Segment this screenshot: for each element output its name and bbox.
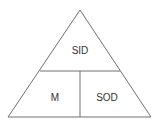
section-bottom-right-label: SOD xyxy=(96,92,118,103)
section-bottom-left-label: M xyxy=(51,92,59,103)
section-top-label: SID xyxy=(72,45,89,56)
triangle-diagram: SID M SOD xyxy=(0,0,160,126)
